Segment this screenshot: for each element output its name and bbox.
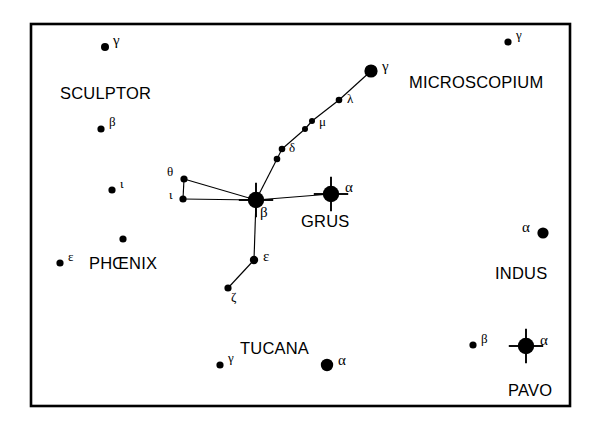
bayer-label-tuc-gamma: γ	[228, 351, 234, 364]
constellation-line	[228, 260, 254, 288]
bayer-label-gru-beta: β	[260, 205, 268, 220]
bayer-label-phe-epsilon: ε	[68, 250, 73, 263]
star-gru-mu2	[309, 118, 315, 124]
star-gru-alpha	[323, 186, 339, 202]
bayer-label-gru-gamma: γ	[382, 59, 389, 74]
star-scl-gamma	[101, 43, 109, 51]
star-phe-unlab	[119, 235, 126, 242]
constellation-line	[184, 179, 256, 200]
bayer-label-tuc-alpha: α	[338, 353, 346, 368]
bayer-label-gru-epsilon: ε	[263, 249, 269, 264]
star-phe-epsilon	[56, 259, 63, 266]
bayer-label-scl-iota: ι	[120, 177, 124, 190]
star-gru-iota	[179, 195, 186, 202]
bayer-label-mic-gamma: γ	[516, 28, 522, 41]
star-pav-alpha	[518, 338, 534, 354]
constellation-label-pavo: PAVO	[508, 382, 552, 399]
star-gru-theta	[180, 175, 187, 182]
bayer-label-gru-alpha: α	[345, 180, 353, 195]
bayer-label-gru-zeta: ζ	[231, 290, 236, 303]
star-tuc-gamma	[216, 361, 223, 368]
star-gru-delta1	[274, 156, 281, 163]
constellation-label-microscopium: MICROSCOPIUM	[409, 74, 543, 91]
bayer-label-gru-delta2: δ	[289, 141, 295, 154]
bayer-label-ind-alpha: α	[522, 220, 530, 235]
constellation-lines	[183, 71, 371, 288]
bayer-label-gru-lambda: λ	[347, 92, 353, 105]
star-scl-iota	[108, 186, 115, 193]
star-gru-delta2	[279, 146, 286, 153]
star-ind-alpha	[537, 227, 548, 238]
bayer-label-gru-mu2: μ	[319, 115, 326, 128]
star-chart-figure: γβιεθιβαδμλγεζγαβαγα SCULPTORMICROSCOPIU…	[0, 0, 593, 431]
bayer-label-scl-beta: β	[109, 115, 116, 128]
constellation-label-grus: GRUS	[301, 213, 349, 230]
star-mic-gamma	[504, 38, 511, 45]
bayer-label-pav-beta: β	[481, 332, 488, 345]
star-gru-gamma	[364, 64, 377, 77]
bayer-label-gru-iota: ι	[169, 188, 173, 201]
bayer-label-pav-alpha: α	[540, 333, 548, 348]
star-gru-epsilon	[250, 256, 258, 264]
constellation-label-sculptor: SCULPTOR	[60, 85, 151, 102]
bayer-label-scl-gamma: γ	[113, 33, 120, 48]
constellation-label-tucana: TUCANA	[240, 340, 309, 357]
star-pav-beta	[469, 341, 476, 348]
constellation-label-indus: INDUS	[495, 265, 547, 282]
bayer-label-gru-theta: θ	[167, 165, 173, 178]
star-map-canvas	[0, 0, 593, 431]
star-gru-lambda	[336, 97, 343, 104]
star-tuc-alpha	[321, 359, 333, 371]
star-scl-beta	[97, 125, 104, 132]
star-gru-mu1	[302, 126, 308, 132]
constellation-label-phnix: PHŒNIX	[89, 255, 157, 272]
